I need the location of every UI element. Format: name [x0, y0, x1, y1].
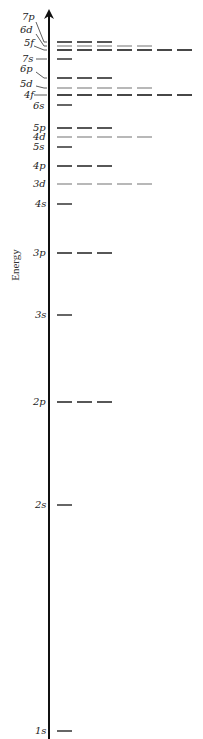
level-7p: 7p: [22, 11, 112, 42]
level-6p: 6p: [20, 63, 112, 78]
level-3s: 3s: [35, 309, 72, 320]
leader-line: [34, 46, 47, 50]
orbital-energy-diagram: Energy 7p6d5f7s6p5d4f6s5p4d5s4p3d4s3p3s2…: [0, 0, 203, 739]
level-5s: 5s: [33, 141, 72, 152]
level-label: 6d: [20, 24, 33, 35]
level-5d: 5d: [20, 78, 152, 89]
leader-line: [36, 72, 47, 78]
energy-axis-label: Energy: [9, 249, 21, 281]
level-label: 4p: [32, 160, 46, 171]
energy-levels: 7p6d5f7s6p5d4f6s5p4d5s4p3d4s3p3s2p2s1s: [20, 11, 192, 736]
level-4s: 4s: [34, 198, 72, 209]
level-1s: 1s: [35, 725, 72, 736]
level-label: 3d: [33, 178, 46, 189]
level-label: 5d: [20, 78, 33, 89]
level-4p: 4p: [32, 160, 112, 171]
level-label: 2p: [32, 396, 46, 407]
level-2s: 2s: [34, 499, 72, 510]
level-label: 2s: [34, 499, 47, 510]
level-label: 7p: [22, 11, 35, 22]
level-label: 4f: [23, 89, 36, 100]
level-label: 6p: [20, 63, 33, 74]
level-3d: 3d: [33, 178, 152, 189]
level-label: 6s: [33, 100, 45, 111]
level-label: 3s: [35, 309, 47, 320]
leader-line: [36, 86, 47, 88]
level-label: 1s: [35, 725, 47, 736]
leader-line: [36, 22, 47, 42]
level-2p: 2p: [32, 396, 112, 407]
level-label: 3p: [33, 247, 46, 258]
level-6s: 6s: [33, 100, 72, 111]
level-label: 5s: [33, 141, 45, 152]
level-label: 4s: [34, 198, 47, 209]
energy-axis: [44, 9, 54, 739]
level-3p: 3p: [33, 247, 112, 258]
